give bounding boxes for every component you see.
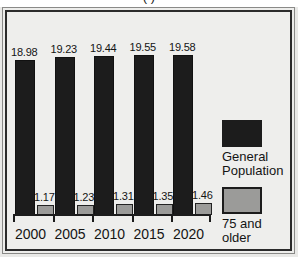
chart-title: ( )	[0, 0, 298, 4]
bar-value-label: 1.35	[153, 190, 174, 202]
bar-general-population	[134, 55, 154, 215]
chart-legend: General Population 75 and older	[222, 120, 288, 254]
x-axis-tick-label: 2020	[169, 226, 208, 242]
bar-value-label: 19.23	[51, 43, 78, 55]
x-axis-tick	[171, 215, 173, 222]
bar-value-label: 1.46	[192, 189, 213, 201]
bar-general-population	[15, 60, 35, 215]
bar-value-label: 19.58	[169, 41, 196, 53]
bar-general-population	[55, 57, 75, 215]
bar-value-label: 1.31	[113, 190, 134, 202]
bar-general-population	[94, 56, 114, 215]
legend-entry-general-population: General Population	[222, 120, 288, 178]
x-axis-tick	[132, 215, 134, 222]
legend-swatch-general-population	[222, 120, 262, 147]
legend-label-75-and-older: 75 and older	[222, 217, 288, 245]
x-axis-tick	[53, 215, 55, 222]
x-axis-tick-label: 2010	[90, 226, 129, 242]
x-axis-tick	[92, 215, 94, 222]
bar-value-label: 1.17	[34, 191, 55, 203]
x-axis-tick-label: 2015	[130, 226, 169, 242]
x-axis-tick	[13, 215, 15, 222]
bar-value-label: 19.44	[90, 42, 117, 54]
bar-value-label: 19.55	[130, 41, 157, 53]
chart-title-clipped: ( )	[0, 0, 298, 7]
x-axis-tick-label: 2005	[51, 226, 90, 242]
x-axis-tick	[209, 215, 211, 222]
chart-figure: ( ) 18.981.1719.231.2319.441.3119.551.35…	[0, 0, 298, 257]
plot-area: 18.981.1719.231.2319.441.3119.551.3519.5…	[9, 14, 211, 247]
x-axis-tick-label: 2000	[11, 226, 50, 242]
legend-entry-75-and-older: 75 and older	[222, 187, 288, 245]
legend-swatch-75-and-older	[222, 187, 262, 214]
legend-label-general-population: General Population	[222, 150, 288, 178]
bar-value-label: 1.23	[74, 191, 95, 203]
bar-general-population	[173, 55, 193, 215]
x-axis-line	[13, 214, 209, 216]
bar-value-label: 18.98	[11, 46, 38, 58]
